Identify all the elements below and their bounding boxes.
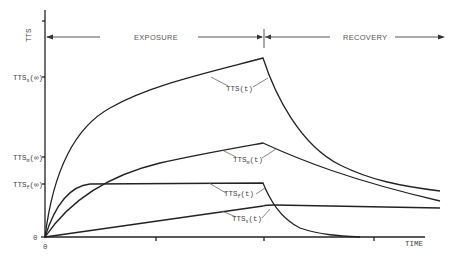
origin-y-label: 0 (33, 234, 38, 242)
label-tts-slow: TTSs(t) (232, 215, 262, 225)
y-axis-label: TTS (25, 28, 33, 42)
leader-medium-right (262, 149, 276, 158)
label-tts-fast: TTSf(t) (224, 190, 254, 200)
x-axis-label: TIME (405, 240, 424, 248)
arrowhead-left-icon (46, 35, 53, 40)
label-tts-total: TTS(t) (226, 85, 253, 93)
origin-x-label: 0 (43, 243, 48, 251)
tts-diagram: TTS TIME 0 0 TTSs(∞) TTSm(∞) TTSf(∞) EXP… (0, 0, 455, 259)
y-label-tts-s-inf: TTSs(∞) (13, 74, 43, 84)
leader-fast-right (256, 188, 265, 194)
leader-slow-right (262, 209, 270, 218)
leader-total-right (253, 78, 268, 87)
y-label-tts-m-inf: TTSm(∞) (13, 154, 43, 164)
arrowhead-right-icon (438, 35, 445, 40)
exposure-label: EXPOSURE (134, 33, 178, 42)
y-label-tts-f-inf: TTSf(∞) (13, 181, 43, 191)
recovery-label: RECOVERY (343, 33, 387, 42)
arrowhead-exposure-end-icon (257, 35, 263, 40)
label-tts-medium: TTSm(t) (233, 156, 263, 166)
